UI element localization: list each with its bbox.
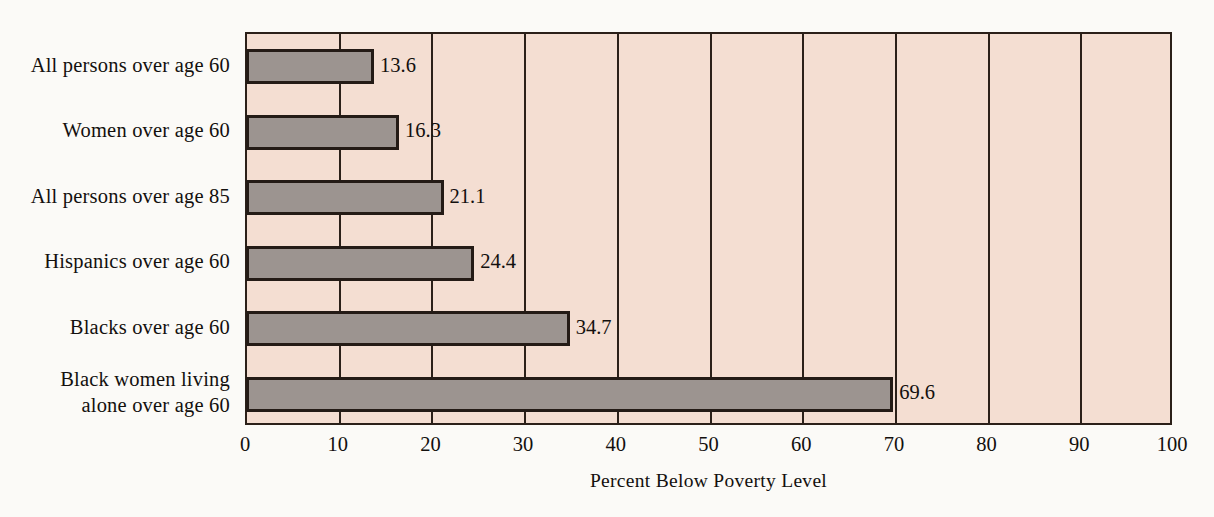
x-tick-label: 40 <box>586 432 646 456</box>
gridline-20 <box>431 34 433 423</box>
category-label: Black women living alone over age 60 <box>0 366 230 418</box>
bar <box>246 180 444 215</box>
bar-value-label: 34.7 <box>576 316 612 338</box>
gridline-10 <box>339 34 341 423</box>
bar-value-label: 13.6 <box>380 54 416 76</box>
poverty-bar-chart: All persons over age 60Women over age 60… <box>0 0 1214 517</box>
bar <box>246 49 374 84</box>
gridline-30 <box>524 34 526 423</box>
category-label: All persons over age 85 <box>0 183 230 209</box>
gridline-60 <box>802 34 804 423</box>
category-label: Blacks over age 60 <box>0 314 230 340</box>
bar-value-label: 21.1 <box>450 185 486 207</box>
bar-value-label: 16.3 <box>405 119 441 141</box>
category-label: Women over age 60 <box>0 117 230 143</box>
x-tick-label: 10 <box>308 432 368 456</box>
x-tick-label: 50 <box>679 432 739 456</box>
category-label: All persons over age 60 <box>0 52 230 78</box>
x-axis-title: Percent Below Poverty Level <box>245 470 1172 492</box>
bar-value-label: 69.6 <box>899 381 935 403</box>
bar-value-label: 24.4 <box>480 250 516 272</box>
x-tick-label: 90 <box>1049 432 1109 456</box>
x-tick-label: 100 <box>1142 432 1202 456</box>
x-tick-label: 0 <box>215 432 275 456</box>
bar <box>246 311 570 346</box>
x-tick-label: 70 <box>864 432 924 456</box>
bar <box>246 115 399 150</box>
x-tick-label: 60 <box>771 432 831 456</box>
bar <box>246 246 474 281</box>
x-tick-label: 20 <box>400 432 460 456</box>
bar <box>246 377 893 412</box>
gridline-90 <box>1080 34 1082 423</box>
gridline-70 <box>895 34 897 423</box>
gridline-80 <box>988 34 990 423</box>
x-tick-label: 30 <box>493 432 553 456</box>
category-label: Hispanics over age 60 <box>0 248 230 274</box>
x-tick-label: 80 <box>957 432 1017 456</box>
category-axis-labels: All persons over age 60Women over age 60… <box>0 32 238 425</box>
gridline-40 <box>617 34 619 423</box>
plot-area <box>245 32 1172 425</box>
gridline-50 <box>710 34 712 423</box>
